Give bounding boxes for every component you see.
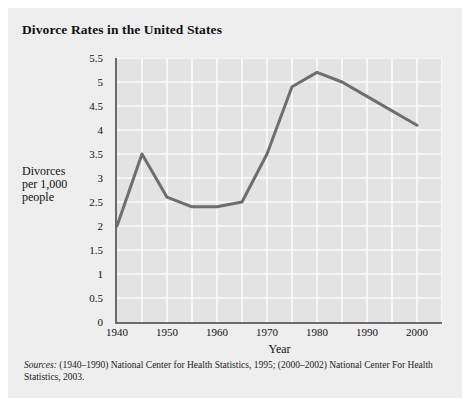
source-label: Sources: (24, 360, 57, 370)
x-axis-tick-label: 1960 (206, 326, 228, 338)
source-text: (1940–1990) National Center for Health S… (24, 360, 433, 382)
source-note: Sources: (1940–1990) National Center for… (24, 360, 442, 383)
x-axis-tick-label: 1990 (356, 326, 378, 338)
x-axis-tick-label: 1950 (156, 326, 178, 338)
x-axis-tick-label: 2000 (406, 326, 428, 338)
x-axis-title: Year (117, 342, 442, 357)
y-axis-title: Divorces per 1,000 people (22, 165, 107, 204)
x-axis-tick-label: 1980 (306, 326, 328, 338)
x-axis-tick-label: 1940 (106, 326, 128, 338)
y-axis-title-line-3: people (22, 191, 107, 204)
x-axis-tick-label: 1970 (256, 326, 278, 338)
